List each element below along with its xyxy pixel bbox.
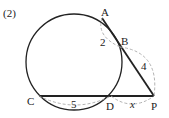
point-label-A: A [101,6,109,18]
point-label-C: C [27,95,34,107]
secant-diagram: (2) A B C D P 2 4 5 x [0,0,169,118]
point-label-P: P [151,100,157,112]
segment-AP [102,18,154,96]
length-BP: 4 [141,60,147,72]
point-label-D: D [106,100,114,112]
length-CD: 5 [71,98,77,110]
point-label-B: B [121,35,128,47]
length-AB: 2 [100,36,106,48]
length-DP: x [129,98,135,110]
problem-number: (2) [3,7,16,20]
